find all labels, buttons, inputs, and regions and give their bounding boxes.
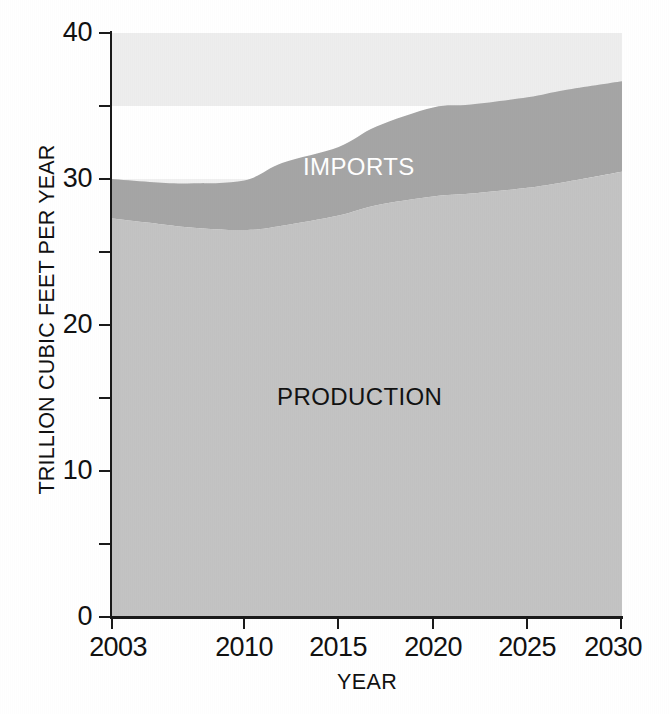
x-axis-line xyxy=(110,616,623,619)
y-tick-40 xyxy=(99,32,110,34)
x-tick-2020 xyxy=(432,618,434,629)
plot-area xyxy=(112,33,622,617)
series-label-production: PRODUCTION xyxy=(277,385,442,409)
x-tick-label-2020: 2020 xyxy=(388,634,478,661)
y-tick-label-0-wrap: 0 xyxy=(28,603,92,633)
x-tick-2003 xyxy=(111,618,113,629)
x-tick-2010 xyxy=(243,618,245,629)
x-axis-title: YEAR xyxy=(112,670,622,695)
y-tick-0 xyxy=(99,616,110,618)
x-tick-label-2030: 2030 xyxy=(568,634,658,661)
x-tick-label-2025: 2025 xyxy=(482,634,572,661)
x-tick-label-2015: 2015 xyxy=(293,634,383,661)
area-chart-svg xyxy=(112,33,622,617)
y-tick-25 xyxy=(99,251,110,253)
series-label-imports: IMPORTS xyxy=(303,155,415,179)
y-tick-35 xyxy=(99,105,110,107)
y-tick-5 xyxy=(99,543,110,545)
y-tick-10 xyxy=(99,470,110,472)
x-tick-2025 xyxy=(526,618,528,629)
x-tick-2030 xyxy=(620,618,622,629)
y-tick-15 xyxy=(99,397,110,399)
x-tick-label-2003: 2003 xyxy=(73,634,163,661)
x-tick-2015 xyxy=(337,618,339,629)
y-tick-20 xyxy=(99,324,110,326)
y-tick-30 xyxy=(99,178,110,180)
chart-figure: 40 30 20 10 0 2003 2010 2015 2020 2025 2… xyxy=(0,0,669,714)
y-tick-label-0: 0 xyxy=(36,603,92,630)
y-axis-line xyxy=(110,31,112,619)
x-tick-label-2010: 2010 xyxy=(199,634,289,661)
y-axis-title: TRILLION CUBIC FEET PER YEAR xyxy=(35,35,60,605)
